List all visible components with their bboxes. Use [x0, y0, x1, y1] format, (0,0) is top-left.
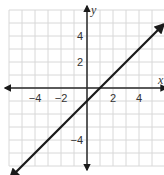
x-tick-label: −4: [29, 92, 42, 104]
y-axis-label: y: [90, 3, 97, 17]
x-tick-label: −2: [55, 92, 68, 104]
x-tick-label: 4: [136, 92, 142, 104]
y-tick-label: 4: [77, 30, 83, 42]
x-axis-label: x: [157, 73, 164, 87]
y-tick-label: 2: [77, 56, 83, 68]
x-tick-label: 2: [110, 92, 116, 104]
axes: [5, 6, 164, 170]
coordinate-plane: −4−22442−4 x y: [0, 0, 164, 175]
y-tick-label: −4: [70, 134, 83, 146]
